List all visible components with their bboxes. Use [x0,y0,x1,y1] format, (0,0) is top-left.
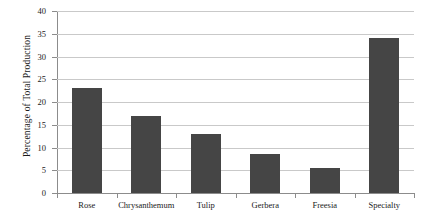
y-tick-label: 35 [24,30,46,39]
x-tick-mark [117,193,118,198]
x-tick-label: Tulip [176,200,236,210]
x-tick-mark [414,193,415,198]
x-tick-label: Gerbera [236,200,296,210]
y-tick-label: 10 [24,144,46,153]
bar-chart: Percentage of Total Production 051015202… [0,0,430,220]
bar-freesia [310,168,340,193]
bar-gerbera [250,154,280,193]
bar-rose [72,88,102,193]
y-tick-label: 40 [24,7,46,16]
y-tick-label: 5 [24,166,46,175]
y-tick-label: 15 [24,121,46,130]
y-tick-label: 0 [24,189,46,198]
x-tick-label: Specialty [355,200,415,210]
x-tick-label: Freesia [295,200,355,210]
x-tick-mark [57,193,58,198]
x-tick-mark [236,193,237,198]
bar-specialty [369,38,399,193]
bars-layer [57,11,414,193]
x-tick-mark [295,193,296,198]
bar-tulip [191,134,221,193]
y-tick-label: 20 [24,98,46,107]
x-tick-mark [355,193,356,198]
x-tick-mark [176,193,177,198]
y-tick-label: 30 [24,53,46,62]
x-tick-label: Rose [57,200,117,210]
x-tick-label: Chrysanthemum [117,200,177,210]
y-tick-label: 25 [24,75,46,84]
bar-chrysanthemum [131,116,161,193]
